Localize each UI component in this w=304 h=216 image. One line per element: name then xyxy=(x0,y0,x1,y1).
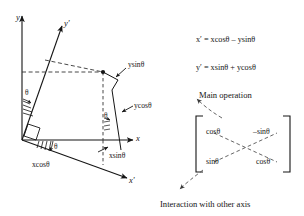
figure-canvas: y y' x x' ysinθ ycosθ xsinθ xcosθ θ θ θ … xyxy=(0,0,304,216)
xsin-theta-label: xsinθ xyxy=(109,152,125,160)
y-prime-axis-line xyxy=(22,26,62,140)
matrix-cell-cos-theta-00: cosθ xyxy=(206,128,220,136)
ycos-bracket xyxy=(112,90,121,150)
matrix-cell-cos-theta-11: cosθ xyxy=(256,158,270,166)
interaction-arrow xyxy=(180,170,203,189)
theta-lower-left-label: θ xyxy=(54,143,58,150)
y-axis-label: y xyxy=(16,13,20,22)
equation-x-prime: x′ = xcosθ – ysinθ xyxy=(196,36,255,44)
theta-upper-left-label: θ xyxy=(25,89,29,96)
x-prime-axis-label: x' xyxy=(129,176,135,185)
ysin-arrow xyxy=(116,68,126,77)
y-prime-axis-label: y' xyxy=(64,19,70,28)
matrix-left-bracket xyxy=(196,116,203,172)
ysin-bracket xyxy=(103,72,118,90)
theta-right-label: θ xyxy=(104,112,108,119)
interaction-annotation: Interaction with other axis xyxy=(160,200,250,209)
ycos-theta-label: ycosθ xyxy=(134,102,152,110)
matrix-cell-sin-theta-10: sinθ xyxy=(206,158,219,166)
main-operation-annotation: Main operation xyxy=(199,91,252,100)
matrix-right-bracket xyxy=(283,116,290,172)
main-operation-arrow xyxy=(197,99,222,118)
hatch-right-angle xyxy=(104,121,110,130)
xcos-theta-label: xcosθ xyxy=(32,161,50,169)
ysin-theta-label: ysinθ xyxy=(128,61,144,69)
dashed-yprime-to-point xyxy=(45,60,103,72)
ycos-arrow xyxy=(122,106,133,112)
diagram-vector-graphics xyxy=(0,0,304,216)
equation-y-prime: y′ = xsinθ + ycosθ xyxy=(196,64,256,72)
matrix-cell-neg-sin-theta-01: –sinθ xyxy=(253,128,270,136)
x-axis-label: x xyxy=(136,134,140,143)
